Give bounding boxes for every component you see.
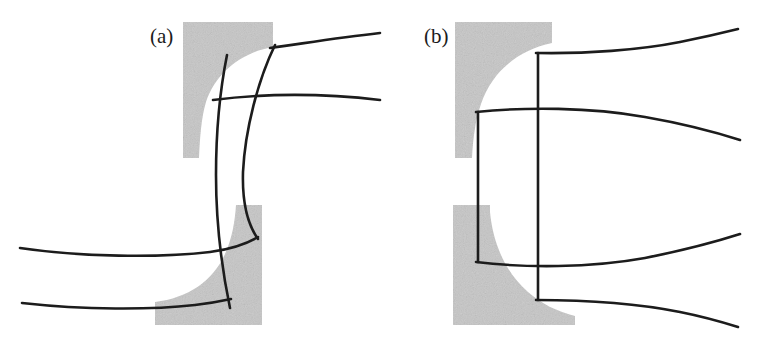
panel-a-label: (a) bbox=[150, 24, 173, 48]
figure-canvas: (a) (b) bbox=[0, 0, 761, 347]
panel-b-label: (b) bbox=[424, 24, 449, 48]
figure-container: (a) (b) bbox=[0, 0, 761, 347]
figure-background bbox=[0, 0, 761, 347]
